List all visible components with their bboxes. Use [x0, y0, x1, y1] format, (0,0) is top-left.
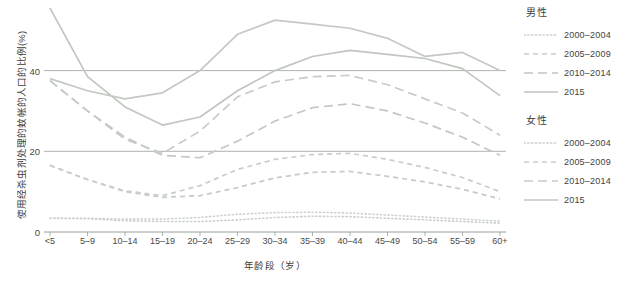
legend-item[interactable]: 2010–2014: [524, 63, 618, 82]
series-line: [50, 81, 500, 158]
legend-item[interactable]: 2005–2009: [524, 152, 618, 171]
legend-group-male: 男性2000–20042005–20092010–20142015: [524, 4, 618, 101]
y-axis-ticks: 02040: [8, 0, 40, 283]
plot-area: [44, 2, 506, 232]
series-line: [50, 216, 500, 223]
x-tick-label: <5: [45, 236, 55, 246]
x-tick-label: 45–49: [375, 236, 400, 246]
x-axis-ticks: <55–910–1415–1920–2425–2930–3435–3940–44…: [44, 236, 506, 254]
chart-legend: 男性2000–20042005–20092010–20142015女性2000–…: [524, 4, 618, 209]
legend-item-label: 2010–2014: [564, 176, 611, 186]
legend-item-label: 2015: [564, 195, 585, 205]
legend-item-label: 2010–2014: [564, 68, 611, 78]
x-tick-label: 10–14: [112, 236, 137, 246]
legend-item[interactable]: 2015: [524, 82, 618, 101]
legend-group-title: 女性: [526, 112, 618, 127]
x-tick-label: 25–29: [225, 236, 250, 246]
line-chart-svg: [44, 2, 506, 232]
legend-item-label: 2015: [564, 87, 585, 97]
y-tick-label: 40: [14, 65, 40, 76]
legend-item-label: 2000–2004: [564, 138, 611, 148]
legend-group-title: 男性: [526, 4, 618, 19]
series-line: [50, 153, 500, 195]
legend-item[interactable]: 2015: [524, 190, 618, 209]
legend-item[interactable]: 2010–2014: [524, 171, 618, 190]
x-tick-label: 15–19: [150, 236, 175, 246]
legend-line-swatch: [524, 49, 558, 59]
x-tick-label: 20–24: [187, 236, 212, 246]
x-tick-label: 5–9: [80, 236, 95, 246]
y-tick-label: 20: [14, 146, 40, 157]
series-line: [50, 20, 500, 99]
chart-root: 使用经杀虫剂处理的蚊帐的人口的比例(%) 02040 <55–910–1415–…: [0, 0, 618, 283]
x-tick-label: 40–44: [337, 236, 362, 246]
legend-line-swatch: [524, 30, 558, 40]
legend-item-label: 2000–2004: [564, 30, 611, 40]
series-line: [50, 165, 500, 198]
x-tick-label: 60+: [492, 236, 507, 246]
legend-line-swatch: [524, 87, 558, 97]
y-tick-label: 0: [14, 227, 40, 238]
legend-item-label: 2005–2009: [564, 157, 611, 167]
legend-item-label: 2005–2009: [564, 49, 611, 59]
series-line: [50, 75, 500, 153]
x-tick-label: 55–59: [450, 236, 475, 246]
legend-item[interactable]: 2005–2009: [524, 44, 618, 63]
legend-line-swatch: [524, 68, 558, 78]
legend-line-swatch: [524, 195, 558, 205]
series-line: [50, 8, 500, 125]
x-axis-title: 年龄段（岁）: [44, 258, 506, 272]
x-tick-label: 35–39: [300, 236, 325, 246]
legend-line-swatch: [524, 138, 558, 148]
legend-line-swatch: [524, 157, 558, 167]
x-tick-label: 30–34: [262, 236, 287, 246]
legend-item[interactable]: 2000–2004: [524, 25, 618, 44]
legend-line-swatch: [524, 176, 558, 186]
legend-item[interactable]: 2000–2004: [524, 133, 618, 152]
x-tick-label: 50–54: [412, 236, 437, 246]
legend-group-female: 女性2000–20042005–20092010–20142015: [524, 112, 618, 209]
